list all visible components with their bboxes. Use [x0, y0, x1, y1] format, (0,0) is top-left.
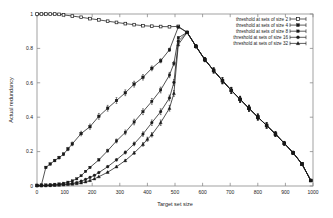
y-tick-label: 0.6 — [26, 80, 33, 86]
redundancy-line-chart: 01002003004005006007008009001000 00.20.4… — [0, 0, 333, 218]
legend-label: threshold at sets of size 8 — [236, 29, 289, 34]
legend-label: threshold at sets of size 16 — [233, 35, 288, 40]
x-tick-label: 700 — [226, 189, 235, 195]
y-tick-label: 0 — [30, 183, 33, 189]
legend-label: threshold at sets of size 4 — [236, 23, 289, 28]
x-tick-label: 900 — [281, 189, 290, 195]
y-tick-label: 0.2 — [26, 148, 33, 154]
x-axis-label: Target set size — [157, 201, 192, 207]
y-tick-label: 0.4 — [26, 114, 33, 120]
legend-label: threshold at sets of size 2 — [236, 17, 289, 22]
x-tick-label: 300 — [116, 189, 125, 195]
x-tick-label: 0 — [36, 189, 39, 195]
x-tick-label: 500 — [171, 189, 180, 195]
y-tick-label: 1 — [30, 11, 33, 17]
y-axis-label: Actual redundancy — [8, 77, 14, 123]
x-tick-label: 400 — [143, 189, 152, 195]
x-tick-label: 1000 — [307, 189, 318, 195]
x-tick-label: 800 — [254, 189, 263, 195]
x-tick-label: 200 — [88, 189, 97, 195]
chart-container: 01002003004005006007008009001000 00.20.4… — [0, 0, 333, 218]
x-tick-label: 100 — [60, 189, 69, 195]
legend-label: threshold at sets of size 32 — [233, 41, 288, 46]
y-tick-label: 0.8 — [26, 45, 33, 51]
x-tick-label: 600 — [198, 189, 207, 195]
